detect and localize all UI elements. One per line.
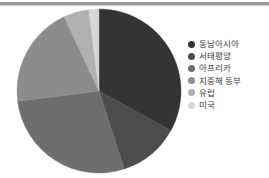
legend-item[interactable]: 유럽 [188, 87, 268, 99]
legend-item-label: 동남아시아 [199, 38, 239, 50]
legend-item-label: 지중해 동부 [199, 75, 241, 87]
legend-dot-icon [188, 89, 195, 96]
legend-item-label: 미국 [199, 99, 215, 111]
legend-dot-icon [188, 53, 195, 60]
legend-dot-icon [188, 41, 195, 48]
legend-dot-icon [188, 65, 195, 72]
legend-item[interactable]: 서태평양 [188, 50, 268, 62]
legend-item[interactable]: 동남아시아 [188, 38, 268, 50]
legend-item[interactable]: 아프리카 [188, 62, 268, 74]
legend-item-label: 아프리카 [199, 62, 231, 74]
pie-chart-svg [0, 6, 190, 178]
legend-item[interactable]: 지중해 동부 [188, 75, 268, 87]
legend-item[interactable]: 미국 [188, 99, 268, 111]
legend-dot-icon [188, 102, 195, 109]
legend-item-label: 서태평양 [199, 50, 231, 62]
pie-slice-group [17, 9, 181, 173]
chart-legend: 동남아시아서태평양아프리카지중해 동부유럽미국 [188, 38, 268, 111]
chart-screenshot: 동남아시아서태평양아프리카지중해 동부유럽미국 [0, 0, 269, 178]
pie-chart-area [0, 6, 190, 178]
legend-item-label: 유럽 [199, 87, 215, 99]
legend-dot-icon [188, 77, 195, 84]
